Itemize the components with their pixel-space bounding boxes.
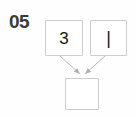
diagram-canvas: 05 3 | [0, 0, 136, 117]
node-box-bottom[interactable] [65, 78, 99, 110]
diagram-index-label: 05 [9, 12, 29, 31]
node-label-top-left: 3 [59, 30, 68, 47]
node-box-top-right[interactable]: | [90, 20, 127, 56]
edge-top-right-to-bottom [86, 56, 106, 74]
node-label-top-right: | [106, 29, 111, 47]
node-box-top-left[interactable]: 3 [45, 20, 83, 56]
edge-top-left-to-bottom [60, 56, 80, 74]
